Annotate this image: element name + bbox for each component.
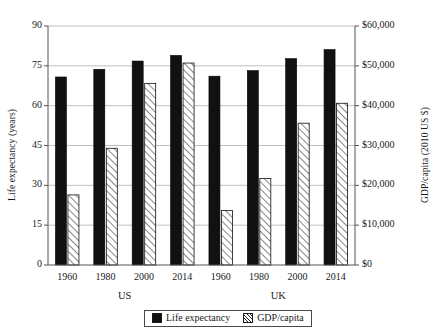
bar-chart: Life expectancy (years) GDP/capita (2010… — [0, 0, 440, 336]
y-axis-left-tick-label: 30 — [0, 178, 42, 189]
bar-life-expectancy — [55, 77, 66, 265]
y-axis-right-tick-label: $60,000 — [362, 19, 422, 30]
legend-label-life-expectancy: Life expectancy — [166, 313, 230, 323]
x-axis-group-label: US — [85, 290, 165, 301]
legend-label-gdp-capita: GDP/capita — [257, 313, 304, 323]
y-axis-right-tick-label: $40,000 — [362, 99, 422, 110]
bar-life-expectancy — [324, 50, 335, 265]
y-axis-right-tick-label: $30,000 — [362, 139, 422, 150]
y-axis-left-tick-label: 90 — [0, 19, 42, 30]
hatched-white-swatch-icon — [243, 313, 253, 323]
solid-black-swatch-icon — [152, 313, 162, 323]
y-axis-right-tick-label: $20,000 — [362, 178, 422, 189]
x-axis-tick-label: 2014 — [306, 271, 366, 282]
y-axis-right-tick-label: $10,000 — [362, 218, 422, 229]
bar-life-expectancy — [94, 69, 105, 265]
x-axis-group-label: UK — [238, 290, 318, 301]
bar-gdp-capita — [183, 63, 194, 265]
bar-gdp-capita — [221, 210, 232, 265]
bar-life-expectancy — [286, 59, 297, 265]
bar-life-expectancy — [209, 76, 220, 265]
bar-gdp-capita — [106, 148, 117, 265]
bar-gdp-capita — [298, 123, 309, 265]
bar-gdp-capita — [68, 195, 79, 265]
y-axis-left-tick-label: 0 — [0, 258, 42, 269]
bars-group — [55, 50, 347, 265]
y-axis-right-tick-label: $0 — [362, 258, 422, 269]
y-axis-right-tick-label: $50,000 — [362, 59, 422, 70]
bar-gdp-capita — [145, 83, 156, 265]
legend-item-gdp-capita: GDP/capita — [243, 313, 304, 323]
bar-life-expectancy — [247, 71, 258, 265]
chart-legend: Life expectancy GDP/capita — [144, 310, 312, 327]
bar-life-expectancy — [132, 61, 143, 265]
y-axis-left-tick-label: 75 — [0, 59, 42, 70]
legend-item-life-expectancy: Life expectancy — [152, 313, 230, 323]
y-axis-left-tick-label: 60 — [0, 99, 42, 110]
bar-gdp-capita — [260, 179, 271, 265]
y-axis-left-tick-label: 45 — [0, 139, 42, 150]
bar-gdp-capita — [337, 103, 348, 265]
bar-life-expectancy — [171, 55, 182, 265]
plot-area — [0, 0, 440, 336]
y-axis-left-tick-label: 15 — [0, 218, 42, 229]
